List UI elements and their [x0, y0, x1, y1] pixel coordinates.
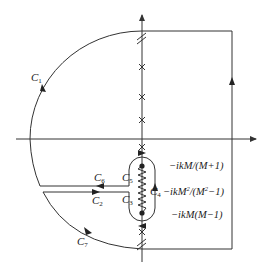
- arrow-right-side: [229, 77, 235, 85]
- label-c1: C1: [31, 72, 42, 85]
- branch-point-upper: [139, 163, 144, 168]
- label-c2: C2: [92, 195, 103, 208]
- contour-diagram: C1 C2 C3 C4 C5 C6 C7 −ikM/(M+1) −ikM2/(M…: [0, 0, 266, 272]
- contour-c1-lower: [30, 139, 40, 186]
- expr-lower: −ikM(M−1): [171, 210, 223, 221]
- branch-point-lower: [139, 210, 144, 215]
- expr-upper: −ikM/(M+1): [169, 161, 223, 172]
- contour-c1: [30, 31, 142, 139]
- label-c6: C6: [94, 172, 105, 185]
- label-c3: C3: [122, 194, 133, 207]
- arrow-c7: [84, 227, 92, 235]
- label-c5: C5: [122, 172, 133, 185]
- label-c4: C4: [150, 186, 161, 199]
- label-c7: C7: [77, 236, 88, 249]
- contour-drawing: [0, 0, 266, 272]
- expr-middle: −ikM2/(M2−1): [163, 186, 224, 198]
